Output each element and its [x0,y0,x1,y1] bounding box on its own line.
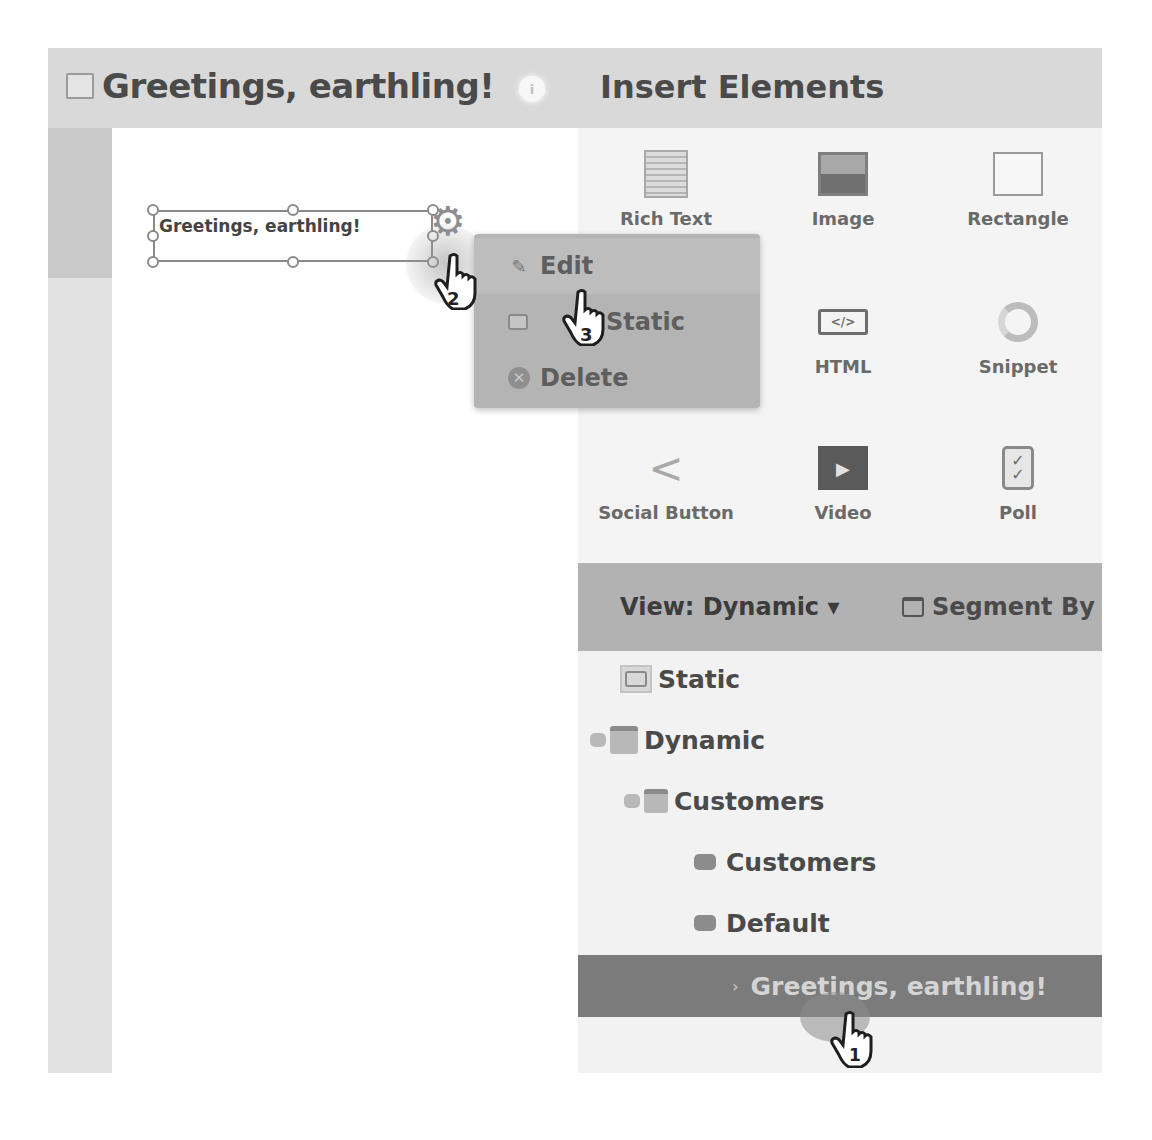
tree-item-static[interactable]: Static [578,651,1102,707]
segment-toolbar: View: Dynamic ▾ Segment By [578,563,1102,651]
segment-by-button[interactable]: Segment By [902,593,1095,621]
resize-handle-middle-left[interactable] [147,230,159,242]
segment-icon [902,597,924,617]
menu-item-label: Edit [540,252,593,280]
sidebar-active-item[interactable] [48,128,112,278]
gear-icon[interactable]: ⚙ [430,201,470,241]
tree-item-dynamic[interactable]: Dynamic [578,712,1102,768]
video-play-icon: ▶ [818,446,868,490]
dynamic-segment-icon [610,726,638,754]
insert-item-label: Rectangle [967,208,1069,229]
insert-rectangle[interactable]: Rectangle [938,152,1098,262]
step-number-1: 1 [849,1045,861,1065]
delete-circle-x-icon: ✕ [508,367,530,389]
segment-icon [694,854,716,870]
rich-text-icon [644,150,688,198]
element-text: Greetings, earthling! [159,216,360,236]
editor-header: Greetings, earthling! i Insert Elements [48,48,1102,128]
insert-social-button[interactable]: < Social Button [586,446,746,556]
html-code-icon: </> [818,309,868,335]
collapse-toggle-icon[interactable] [590,733,606,747]
share-icon: < [648,444,683,493]
insert-item-label: Image [812,208,875,229]
insert-item-label: Poll [999,502,1037,523]
left-sidebar [48,128,112,1073]
insert-elements-title: Insert Elements [600,68,884,106]
insert-item-label: Snippet [979,356,1058,377]
info-icon[interactable]: i [519,76,545,102]
tree-item-label: Customers [726,848,876,877]
collapse-toggle-icon[interactable] [624,794,640,808]
resize-handle-bottom-middle[interactable] [287,256,299,268]
menu-item-label: Static [606,308,685,336]
element-context-menu: ✎ Edit Static ✕ Delete [474,234,760,408]
pencil-icon: ✎ [508,255,530,277]
tree-item-label: Static [658,665,740,694]
menu-item-label: Delete [540,364,628,392]
segment-by-label: Segment By [932,593,1095,621]
tree-item-label: Dynamic [644,726,765,755]
document-title: Greetings, earthling! [102,66,494,106]
tree-item-customers-segmentation[interactable]: Customers [578,773,1102,829]
tree-item-customers-segment[interactable]: Customers [578,834,1102,890]
step-number-3: 3 [580,324,593,345]
segmentation-icon [644,789,668,813]
tree-item-label: Customers [674,787,824,816]
snippet-icon [998,302,1038,342]
editor-frame: Greetings, earthling! i Insert Elements … [48,48,1102,1073]
menu-item-edit[interactable]: ✎ Edit [474,238,760,294]
rectangle-icon [993,152,1043,196]
insert-video[interactable]: ▶ Video [763,446,923,556]
insert-snippet[interactable]: Snippet [938,300,1098,410]
element-bullet-icon: › [732,977,739,996]
tree-item-label: Default [726,909,830,938]
image-icon [818,152,868,196]
segment-icon [694,915,716,931]
document-select-checkbox[interactable] [66,73,94,99]
insert-item-label: Video [814,502,871,523]
document-title-group: Greetings, earthling! [66,66,494,106]
insert-poll[interactable]: ✓✓ Poll [938,446,1098,556]
poll-clipboard-icon: ✓✓ [1002,446,1034,490]
static-box-icon [508,314,528,330]
insert-image[interactable]: Image [763,152,923,262]
insert-item-label: HTML [815,356,872,377]
insert-item-label: Social Button [598,502,734,523]
selected-rich-text-element[interactable]: Greetings, earthling! [153,210,433,262]
step-number-2: 2 [447,288,460,309]
view-dropdown[interactable]: View: Dynamic ▾ [620,593,840,621]
static-box-icon [620,665,652,693]
resize-handle-top-middle[interactable] [287,204,299,216]
insert-html[interactable]: </> HTML [763,300,923,410]
tree-item-default-segment[interactable]: Default [578,895,1102,951]
menu-item-make-static[interactable]: Static [474,294,760,350]
resize-handle-top-left[interactable] [147,204,159,216]
menu-item-delete[interactable]: ✕ Delete [474,350,760,406]
insert-item-label: Rich Text [620,208,712,229]
tree-item-label: Greetings, earthling! [751,972,1047,1001]
resize-handle-bottom-left[interactable] [147,256,159,268]
